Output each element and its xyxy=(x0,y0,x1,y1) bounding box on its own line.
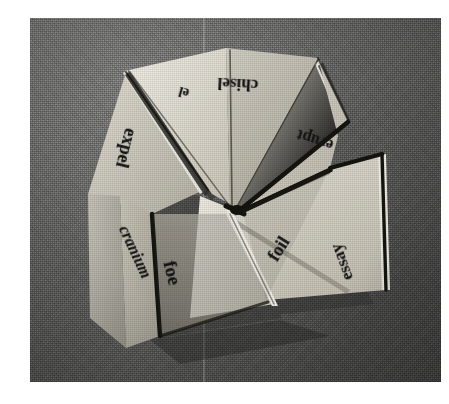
margin-bottom xyxy=(0,382,449,404)
photo-vignette xyxy=(30,18,441,382)
margin-top xyxy=(0,0,449,18)
scanned-photograph: chisel el expel erupt foil essay foe cra… xyxy=(30,18,441,382)
image-canvas: chisel el expel erupt foil essay foe cra… xyxy=(0,0,449,404)
margin-right xyxy=(441,0,449,404)
margin-left xyxy=(0,0,30,404)
